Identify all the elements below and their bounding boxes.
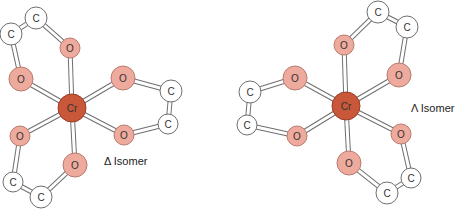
svg-text:C: C — [167, 86, 174, 97]
oxygen-atom: O — [63, 153, 87, 177]
svg-text:O: O — [395, 70, 403, 81]
oxygen-atom: O — [60, 38, 80, 58]
oxygen-atom: O — [10, 126, 30, 146]
carbon-atom: C — [239, 81, 261, 103]
svg-text:C: C — [407, 173, 414, 184]
oxygen-atom: O — [387, 63, 411, 87]
carbon-atom: C — [401, 168, 421, 188]
svg-text:C: C — [246, 87, 253, 98]
svg-text:Cr: Cr — [341, 101, 352, 112]
svg-text:C: C — [374, 7, 381, 18]
oxygen-atom: O — [334, 35, 354, 55]
oxygen-atom: O — [9, 67, 33, 91]
svg-text:C: C — [32, 13, 39, 24]
oxygen-atom: O — [287, 126, 307, 146]
carbon-atom: C — [3, 172, 23, 192]
chromium-oxalate-isomers-diagram: CrOOOOOOCCCCCCCrOOOOOOCCCCCC Δ Isomer Λ … — [0, 0, 456, 209]
oxygen-atom: O — [111, 66, 135, 90]
lambda-isomer-molecule: CrOOOOOOCCCCCC — [237, 1, 421, 204]
svg-text:O: O — [16, 131, 24, 142]
svg-text:C: C — [7, 29, 14, 40]
svg-text:C: C — [383, 188, 390, 199]
carbon-atom: C — [396, 16, 418, 38]
svg-text:C: C — [243, 120, 250, 131]
molecule-drawing: CrOOOOOOCCCCCCCrOOOOOOCCCCCC — [0, 0, 456, 209]
svg-text:Cr: Cr — [67, 103, 78, 114]
carbon-atom: C — [160, 80, 182, 102]
svg-text:C: C — [9, 177, 16, 188]
svg-text:C: C — [37, 192, 44, 203]
delta-isomer-molecule: CrOOOOOOCCCCCC — [0, 7, 182, 208]
carbon-atom: C — [376, 182, 398, 204]
carbon-atom: C — [367, 1, 389, 23]
delta-isomer-label: Δ Isomer — [104, 155, 147, 167]
oxygen-atom: O — [283, 66, 307, 90]
chromium-atom: Cr — [58, 94, 86, 122]
lambda-isomer-label: Λ Isomer — [411, 102, 454, 114]
svg-text:O: O — [291, 73, 299, 84]
oxygen-atom: O — [337, 151, 361, 175]
svg-text:O: O — [293, 131, 301, 142]
oxygen-atom: O — [391, 124, 411, 144]
svg-text:O: O — [345, 158, 353, 169]
svg-text:O: O — [340, 40, 348, 51]
svg-text:C: C — [164, 119, 171, 130]
svg-text:O: O — [397, 129, 405, 140]
carbon-atom: C — [158, 114, 178, 134]
chromium-atom: Cr — [332, 92, 360, 120]
carbon-atom: C — [25, 7, 47, 29]
carbon-atom: C — [0, 23, 22, 45]
svg-text:O: O — [66, 43, 74, 54]
svg-text:O: O — [17, 74, 25, 85]
svg-text:C: C — [403, 22, 410, 33]
carbon-atom: C — [30, 186, 52, 208]
svg-text:O: O — [71, 160, 79, 171]
carbon-atom: C — [237, 115, 257, 135]
oxygen-atom: O — [114, 125, 134, 145]
svg-text:O: O — [120, 130, 128, 141]
svg-text:O: O — [119, 73, 127, 84]
